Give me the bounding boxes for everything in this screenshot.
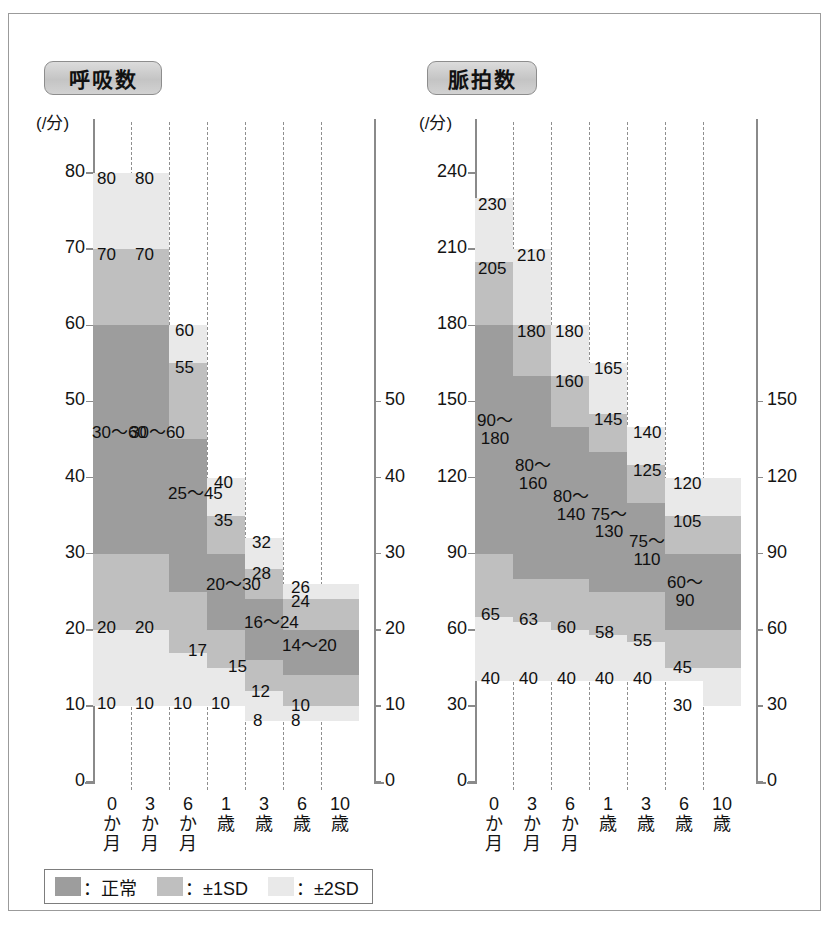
value-label[interactable]: 16〜24 xyxy=(244,614,284,632)
y-tick[interactable] xyxy=(86,553,93,555)
value-label[interactable]: 80 xyxy=(97,170,137,188)
y-tick-secondary[interactable] xyxy=(374,477,381,479)
value-label[interactable]: 10 xyxy=(135,695,175,713)
value-label[interactable]: 20 xyxy=(135,619,175,637)
value-label[interactable]: 58 xyxy=(595,624,635,642)
bar-column[interactable] xyxy=(475,14,513,782)
value-label[interactable]: 75〜110 xyxy=(624,533,670,569)
value-label[interactable]: 20〜30 xyxy=(206,576,246,594)
y-tick-secondary[interactable] xyxy=(374,401,381,403)
bar-column[interactable] xyxy=(283,14,321,782)
value-label[interactable]: 10 xyxy=(173,695,213,713)
value-label[interactable]: 45 xyxy=(673,659,713,677)
value-label[interactable]: 8 xyxy=(291,712,331,730)
value-label[interactable]: 40 xyxy=(557,670,597,688)
value-label[interactable]: 28 xyxy=(252,565,292,583)
y-tick-secondary[interactable] xyxy=(374,781,381,783)
value-label[interactable]: 80 xyxy=(135,170,175,188)
value-label[interactable]: 32 xyxy=(252,534,292,552)
y-tick[interactable] xyxy=(86,629,93,631)
y-tick-secondary[interactable] xyxy=(374,705,381,707)
value-label[interactable]: 40 xyxy=(633,670,673,688)
x-category-label[interactable]: 10歳 xyxy=(700,794,744,834)
bar-column[interactable] xyxy=(513,14,551,782)
y-tick-label[interactable]: 30 xyxy=(411,694,467,715)
y-tick[interactable] xyxy=(468,172,475,174)
value-label[interactable]: 180 xyxy=(555,323,601,341)
value-label[interactable]: 12 xyxy=(251,683,291,701)
value-label[interactable]: 17 xyxy=(165,642,207,660)
y-tick-label-secondary[interactable]: 0 xyxy=(767,770,823,791)
y-tick[interactable] xyxy=(468,401,475,403)
y-tick-label[interactable]: 150 xyxy=(411,389,467,410)
y-tick-label[interactable]: 0 xyxy=(411,770,467,791)
y-tick-secondary[interactable] xyxy=(756,781,763,783)
y-tick[interactable] xyxy=(468,629,475,631)
y-tick-label[interactable]: 90 xyxy=(411,542,467,563)
value-label[interactable]: 20 xyxy=(97,619,137,637)
y-tick[interactable] xyxy=(86,705,93,707)
value-label[interactable]: 230 xyxy=(478,196,524,214)
y-tick-secondary[interactable] xyxy=(374,629,381,631)
y-axis-secondary[interactable] xyxy=(374,119,376,784)
value-label[interactable]: 30〜60 xyxy=(130,424,170,442)
bar-column[interactable] xyxy=(131,14,169,782)
y-tick-secondary[interactable] xyxy=(756,401,763,403)
y-tick-label[interactable]: 120 xyxy=(411,466,467,487)
y-tick-label[interactable]: 10 xyxy=(29,694,85,715)
y-tick-label[interactable]: 70 xyxy=(29,237,85,258)
y-tick-label-secondary[interactable]: 60 xyxy=(767,618,823,639)
y-tick[interactable] xyxy=(86,401,93,403)
y-tick-label-secondary[interactable]: 30 xyxy=(767,694,823,715)
value-label[interactable]: 10 xyxy=(97,695,137,713)
value-label[interactable]: 105 xyxy=(673,513,719,531)
value-label[interactable]: 65 xyxy=(481,606,521,624)
y-tick-label-secondary[interactable]: 150 xyxy=(767,389,823,410)
value-label[interactable]: 210 xyxy=(517,247,563,265)
y-tick[interactable] xyxy=(468,781,475,783)
value-label[interactable]: 60 xyxy=(557,619,597,637)
value-label[interactable]: 90〜180 xyxy=(472,412,518,448)
y-tick-label[interactable]: 20 xyxy=(29,618,85,639)
value-label[interactable]: 14〜20 xyxy=(282,637,322,655)
value-label[interactable]: 70 xyxy=(97,246,137,264)
y-tick-secondary[interactable] xyxy=(756,553,763,555)
y-tick[interactable] xyxy=(468,325,475,327)
bar-column[interactable] xyxy=(551,14,589,782)
y-tick-label[interactable]: 240 xyxy=(411,161,467,182)
y-tick-label[interactable]: 60 xyxy=(411,618,467,639)
value-label[interactable]: 63 xyxy=(519,611,559,629)
y-tick[interactable] xyxy=(86,325,93,327)
x-category-label[interactable]: 10歳 xyxy=(318,794,362,834)
value-label[interactable]: 25〜45 xyxy=(168,485,208,503)
bar-column[interactable] xyxy=(321,14,359,782)
y-tick-label[interactable]: 40 xyxy=(29,466,85,487)
value-label[interactable]: 30 xyxy=(673,697,713,715)
value-label[interactable]: 120 xyxy=(673,475,719,493)
value-label[interactable]: 165 xyxy=(594,360,640,378)
value-label[interactable]: 70 xyxy=(135,246,175,264)
value-label[interactable]: 24 xyxy=(291,593,331,611)
y-tick-secondary[interactable] xyxy=(756,705,763,707)
y-axis-secondary[interactable] xyxy=(756,119,758,784)
y-tick-label[interactable]: 180 xyxy=(411,313,467,334)
value-label[interactable]: 40 xyxy=(481,670,521,688)
value-label[interactable]: 10 xyxy=(211,695,251,713)
value-label[interactable]: 40 xyxy=(214,474,254,492)
value-label[interactable]: 55 xyxy=(175,359,215,377)
y-tick[interactable] xyxy=(86,781,93,783)
y-tick-secondary[interactable] xyxy=(756,477,763,479)
value-label[interactable]: 60〜90 xyxy=(662,574,708,610)
y-tick[interactable] xyxy=(86,477,93,479)
y-tick[interactable] xyxy=(468,553,475,555)
bar-column[interactable] xyxy=(627,14,665,782)
y-tick-label-secondary[interactable]: 90 xyxy=(767,542,823,563)
value-label[interactable]: 8 xyxy=(253,712,293,730)
y-tick[interactable] xyxy=(468,705,475,707)
value-label[interactable]: 40 xyxy=(595,670,635,688)
value-label[interactable]: 35 xyxy=(214,512,254,530)
y-tick[interactable] xyxy=(86,172,93,174)
value-label[interactable]: 60 xyxy=(175,322,215,340)
value-label[interactable]: 55 xyxy=(633,632,673,650)
y-tick[interactable] xyxy=(86,248,93,250)
